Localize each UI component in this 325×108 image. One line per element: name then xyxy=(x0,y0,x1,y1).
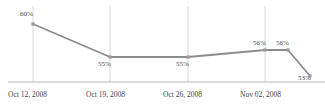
x-axis-tick-label: Oct 12, 2008 xyxy=(8,90,47,99)
line-chart: 60%55%55%56%56%53% Oct 12, 2008Oct 19, 2… xyxy=(0,0,325,108)
data-point-marker[interactable] xyxy=(263,48,266,51)
data-point-marker[interactable] xyxy=(186,55,189,58)
data-point-label: 60% xyxy=(20,10,33,18)
x-axis-tick-label: Nov 02, 2008 xyxy=(240,90,281,99)
data-point-marker[interactable] xyxy=(286,48,289,51)
data-point-label: 55% xyxy=(176,60,189,68)
data-point-marker[interactable] xyxy=(31,22,34,25)
data-point-label: 53% xyxy=(298,74,311,82)
x-axis-tick-label: Oct 19, 2008 xyxy=(86,90,125,99)
series-line xyxy=(33,24,310,76)
x-axis-tick-label: Oct 26, 2008 xyxy=(163,90,202,99)
data-point-label: 56% xyxy=(276,39,289,47)
data-point-label: 55% xyxy=(98,60,111,68)
gridlines xyxy=(33,6,265,82)
data-point-label: 56% xyxy=(253,39,266,47)
data-point-marker[interactable] xyxy=(108,55,111,58)
